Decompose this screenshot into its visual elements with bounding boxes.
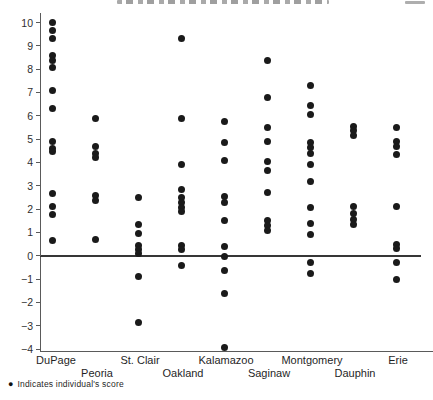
y-tick-mark: [36, 162, 41, 163]
data-dot: [49, 27, 56, 34]
data-dot: [307, 161, 314, 168]
y-tick-label: 5: [7, 134, 33, 144]
data-dot: [135, 273, 142, 280]
data-dot: [49, 211, 56, 218]
y-tick-mark: [36, 255, 41, 256]
data-dot: [135, 230, 142, 237]
data-dot: [393, 151, 400, 158]
y-tick-label: 10: [7, 18, 33, 28]
data-dot: [221, 199, 228, 206]
y-tick-mark: [36, 349, 41, 350]
y-tick-mark: [36, 45, 41, 46]
category-label-dauphin: Dauphin: [335, 367, 376, 379]
category-label-dupage: DuPage: [36, 354, 76, 366]
data-dot: [178, 246, 185, 253]
scatter-figure: 109876543210−1−2−3−4DuPagePeoriaSt. Clai…: [0, 0, 433, 400]
data-dot: [49, 105, 56, 112]
data-dot: [393, 245, 400, 252]
y-tick-label: 2: [7, 204, 33, 214]
data-dot: [221, 267, 228, 274]
y-tick-mark: [36, 325, 41, 326]
y-tick-label: 3: [7, 181, 33, 191]
data-dot: [178, 262, 185, 269]
data-dot: [350, 203, 357, 210]
y-tick-mark: [36, 232, 41, 233]
data-dot: [307, 270, 314, 277]
data-dot: [49, 64, 56, 71]
data-dot: [49, 203, 56, 210]
data-dot: [49, 237, 56, 244]
data-dot: [350, 221, 357, 228]
data-dot: [350, 132, 357, 139]
data-dot: [178, 35, 185, 42]
data-dot: [307, 111, 314, 118]
data-dot: [221, 217, 228, 224]
y-tick-label: −1: [7, 274, 33, 284]
data-dot: [264, 158, 271, 165]
data-dot: [221, 344, 228, 351]
data-dot: [49, 57, 56, 64]
data-dot: [221, 157, 228, 164]
y-tick-mark: [36, 209, 41, 210]
y-tick-mark: [36, 279, 41, 280]
data-dot: [307, 220, 314, 227]
data-dot: [178, 186, 185, 193]
legend-label: Indicates individual's score: [17, 379, 123, 389]
data-dot: [307, 259, 314, 266]
data-dot: [221, 243, 228, 250]
data-dot: [135, 194, 142, 201]
y-tick-label: 7: [7, 87, 33, 97]
category-label-stclair: St. Clair: [120, 354, 159, 366]
page-number-cropped: [405, 1, 425, 4]
y-axis-line: [40, 13, 41, 351]
data-dot: [135, 221, 142, 228]
data-dot: [221, 118, 228, 125]
data-dot: [264, 189, 271, 196]
data-dot: [92, 236, 99, 243]
x-axis-line: [40, 351, 433, 352]
data-dot: [307, 82, 314, 89]
y-tick-mark: [36, 22, 41, 23]
zero-baseline: [40, 255, 421, 257]
y-tick-mark: [36, 69, 41, 70]
data-dot: [393, 203, 400, 210]
data-dot: [92, 143, 99, 150]
data-dot: [49, 35, 56, 42]
data-dot: [393, 259, 400, 266]
data-dot: [264, 57, 271, 64]
category-label-montgomery: Montgomery: [281, 354, 342, 366]
y-tick-mark: [36, 185, 41, 186]
data-dot: [92, 197, 99, 204]
y-tick-label: 8: [7, 64, 33, 74]
data-dot: [178, 161, 185, 168]
y-tick-label: −4: [7, 344, 33, 354]
y-tick-label: 9: [7, 41, 33, 51]
data-dot: [307, 204, 314, 211]
legend: ● Indicates individual's score: [8, 379, 124, 389]
data-dot: [49, 19, 56, 26]
y-tick-label: 4: [7, 157, 33, 167]
data-dot: [307, 231, 314, 238]
running-head-cropped: [117, 0, 329, 4]
data-dot: [221, 253, 228, 260]
data-dot: [49, 148, 56, 155]
data-dot: [135, 319, 142, 326]
data-dot: [49, 190, 56, 197]
data-dot: [264, 227, 271, 234]
y-tick-mark: [36, 302, 41, 303]
data-dot: [307, 150, 314, 157]
data-dot: [264, 167, 271, 174]
data-dot: [135, 250, 142, 257]
category-label-erie: Erie: [388, 354, 408, 366]
y-tick-mark: [36, 92, 41, 93]
data-dot: [393, 124, 400, 131]
data-dot: [264, 124, 271, 131]
y-tick-label: 6: [7, 111, 33, 121]
y-tick-mark: [36, 115, 41, 116]
y-tick-label: 1: [7, 227, 33, 237]
data-dot: [92, 115, 99, 122]
data-dot: [264, 94, 271, 101]
data-dot: [393, 276, 400, 283]
data-dot: [307, 178, 314, 185]
category-label-kalamazoo: Kalamazoo: [198, 354, 253, 366]
